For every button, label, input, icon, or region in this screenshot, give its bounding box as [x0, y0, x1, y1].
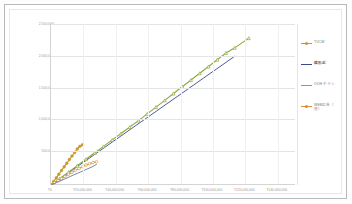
plot-area [50, 24, 295, 185]
legend-label: TVCM [314, 40, 348, 45]
x-axis-label: ¥0 [38, 188, 62, 192]
x-axis-label: ¥100,000,000 [196, 188, 228, 192]
series-WEB広告（他） [51, 161, 98, 185]
y-axis-label: 500,000 [18, 149, 54, 153]
legend-item[interactable]: WEB広告（ 他） [301, 103, 349, 113]
data-series-layer [51, 24, 296, 185]
x-axis-label: ¥60,000,000 [131, 188, 163, 192]
y-axis-label: 1,000,000 [18, 117, 54, 121]
x-axis-label: ¥120,000,000 [228, 188, 260, 192]
y-axis-label: 0 [18, 181, 54, 185]
legend-item[interactable]: 線形近 [301, 61, 349, 71]
gridline [51, 151, 295, 152]
legend-marker-icon [301, 64, 312, 65]
legend-label: 線形近 [314, 61, 348, 66]
legend-divider [297, 24, 298, 185]
gridline [51, 24, 295, 25]
gridline [51, 119, 295, 120]
x-axis-label: ¥20,000,000 [66, 188, 98, 192]
vertical-gridline [245, 24, 246, 184]
legend-label: OOH チラシ [314, 82, 348, 87]
y-axis-label: 2,000,000 [18, 54, 54, 58]
vertical-gridline [181, 24, 182, 184]
y-axis-label: 2,500,000 [18, 22, 54, 26]
legend-marker-icon [301, 106, 312, 107]
legend-label: WEB広告（ 他） [314, 103, 348, 112]
screenshot-frame: 2,500,000 2,000,000 1,500,000 1,000,000 … [0, 0, 352, 204]
legend-item[interactable]: OOH チラシ [301, 82, 349, 92]
series-線形近似 [51, 56, 235, 185]
x-axis-label: ¥40,000,000 [99, 188, 131, 192]
series-OOH チラシ [51, 37, 250, 185]
legend-item[interactable]: TVCM [301, 40, 349, 50]
x-axis-label: ¥140,000,000 [261, 188, 293, 192]
vertical-gridline [213, 24, 214, 184]
gridline [51, 56, 295, 57]
chart-legend: TVCM 線形近 OOH チラシ WEB広告（ 他） [301, 40, 349, 124]
vertical-gridline [83, 24, 84, 184]
chart-area: 2,500,000 2,000,000 1,500,000 1,000,000 … [10, 10, 341, 193]
vertical-gridline [116, 24, 117, 184]
y-axis-label: 1,500,000 [18, 86, 54, 90]
x-axis-label: ¥80,000,000 [164, 188, 196, 192]
gridline [51, 88, 295, 89]
vertical-gridline [278, 24, 279, 184]
vertical-gridline [148, 24, 149, 184]
legend-marker-icon [301, 43, 312, 44]
legend-marker-icon [301, 85, 312, 86]
